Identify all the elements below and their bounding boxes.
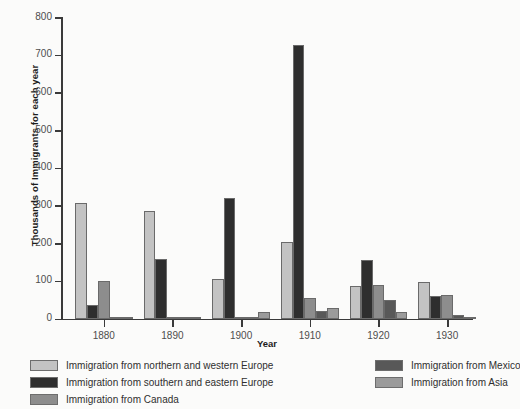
- bar-group: [350, 17, 408, 319]
- bar: [258, 312, 270, 319]
- y-tick: [55, 130, 62, 132]
- y-tick: [55, 205, 62, 207]
- bar: [316, 311, 328, 319]
- x-tick: [310, 319, 312, 327]
- legend-item[interactable]: Immigration from northern and western Eu…: [30, 356, 273, 372]
- x-axis-line: [61, 319, 473, 321]
- bar: [98, 281, 110, 319]
- legend-label: Immigration from Asia: [411, 377, 508, 388]
- bar: [281, 242, 293, 319]
- bar: [453, 315, 465, 318]
- bar: [212, 279, 224, 319]
- y-tick-label: 800: [6, 11, 52, 22]
- chart-legend: Immigration from northern and western Eu…: [30, 356, 490, 406]
- bar: [87, 305, 99, 319]
- x-tick: [241, 319, 243, 327]
- x-tick: [378, 319, 380, 327]
- legend-item[interactable]: Immigration from Asia: [375, 373, 520, 389]
- x-tick: [447, 319, 449, 327]
- x-tick: [104, 319, 106, 327]
- y-tick-label: 700: [6, 48, 52, 59]
- legend-label: Immigration from southern and eastern Eu…: [66, 377, 273, 388]
- y-tick-label: 200: [6, 237, 52, 248]
- y-tick: [55, 281, 62, 283]
- legend-column: Immigration from northern and western Eu…: [30, 356, 273, 407]
- y-tick: [55, 319, 62, 321]
- y-tick-label: 400: [6, 161, 52, 172]
- bar: [430, 296, 442, 318]
- bar: [144, 211, 156, 318]
- bar: [304, 298, 316, 319]
- bar: [350, 286, 362, 318]
- legend-swatch-icon: [375, 377, 403, 388]
- bar: [327, 308, 339, 318]
- legend-label: Immigration from northern and western Eu…: [66, 360, 273, 371]
- bar: [167, 317, 179, 319]
- bar-group: [212, 17, 270, 319]
- bar: [235, 317, 247, 319]
- y-tick-label: 0: [6, 312, 52, 323]
- legend-swatch-icon: [30, 360, 58, 371]
- bar: [178, 317, 190, 319]
- y-tick: [55, 55, 62, 57]
- legend-label: Immigration from Mexico: [411, 360, 520, 371]
- y-tick-label: 100: [6, 274, 52, 285]
- legend-item[interactable]: Immigration from Canada: [30, 390, 273, 406]
- bar: [384, 300, 396, 319]
- legend-column: Immigration from MexicoImmigration from …: [375, 356, 520, 390]
- bar: [121, 317, 133, 319]
- bar: [441, 295, 453, 319]
- bar: [224, 198, 236, 319]
- bar: [373, 285, 385, 319]
- bar: [190, 317, 202, 319]
- legend-swatch-icon: [30, 394, 58, 405]
- y-tick: [55, 17, 62, 19]
- legend-item[interactable]: Immigration from Mexico: [375, 356, 520, 372]
- x-axis-title: Year: [61, 338, 473, 349]
- y-tick: [55, 92, 62, 94]
- bar: [464, 317, 476, 319]
- bar-group: [75, 17, 133, 319]
- bar-group: [281, 17, 339, 319]
- legend-swatch-icon: [375, 360, 403, 371]
- legend-item[interactable]: Immigration from southern and eastern Eu…: [30, 373, 273, 389]
- bar: [361, 260, 373, 318]
- bar: [293, 45, 305, 318]
- plot-area: 0100200300400500600700800 18801890190019…: [61, 17, 473, 320]
- legend-label: Immigration from Canada: [66, 394, 179, 405]
- y-tick-label: 300: [6, 199, 52, 210]
- y-tick: [55, 243, 62, 245]
- y-tick-label: 600: [6, 86, 52, 97]
- bar-group: [418, 17, 476, 319]
- bar: [110, 317, 122, 319]
- bar-group: [144, 17, 202, 319]
- bar: [247, 317, 259, 319]
- x-tick: [172, 319, 174, 327]
- bar: [396, 312, 408, 318]
- legend-swatch-icon: [30, 377, 58, 388]
- y-tick: [55, 168, 62, 170]
- y-tick-label: 500: [6, 124, 52, 135]
- bar: [418, 282, 430, 318]
- bar: [155, 259, 167, 319]
- bar: [75, 203, 87, 319]
